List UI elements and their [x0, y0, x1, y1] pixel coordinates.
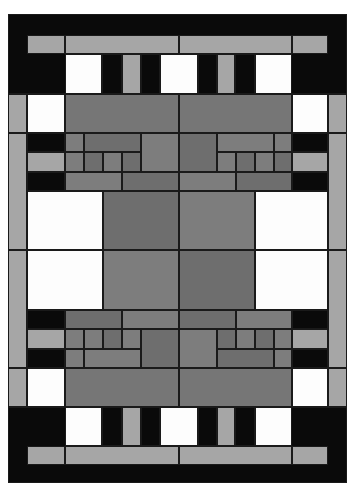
gray-block [65, 94, 179, 133]
medium-gray-block [274, 329, 292, 349]
light-gray-block [8, 368, 27, 407]
white-block [65, 407, 102, 446]
light-gray-block [292, 35, 328, 54]
dark-gray-block [122, 152, 141, 172]
black-block [102, 407, 122, 446]
dark-gray-block [122, 172, 179, 191]
light-gray-block [65, 446, 179, 465]
light-gray-block [217, 407, 235, 446]
white-block [27, 191, 103, 250]
medium-gray-block [217, 133, 274, 152]
medium-gray-block [65, 172, 122, 191]
light-gray-block [27, 152, 65, 172]
medium-gray-block [122, 310, 179, 329]
black-block [27, 172, 65, 191]
white-block [292, 368, 328, 407]
light-gray-block [328, 368, 347, 407]
gray-block [179, 94, 292, 133]
medium-gray-block [84, 349, 141, 368]
black-block [141, 54, 160, 94]
black-block [198, 407, 217, 446]
white-block [27, 250, 103, 310]
light-gray-block [292, 446, 328, 465]
light-gray-block [328, 94, 347, 133]
dark-gray-block [84, 152, 103, 172]
black-block [292, 133, 328, 152]
light-gray-block [27, 446, 65, 465]
medium-gray-block [179, 329, 217, 368]
light-gray-block [65, 35, 179, 54]
black-block [27, 133, 65, 152]
medium-gray-block [179, 191, 255, 250]
medium-gray-block [274, 133, 292, 152]
black-block [27, 310, 65, 329]
light-gray-block [328, 250, 347, 368]
medium-gray-block [255, 152, 274, 172]
medium-gray-block [141, 133, 179, 172]
white-block [27, 368, 65, 407]
light-gray-block [122, 54, 141, 94]
white-block [160, 407, 198, 446]
medium-gray-block [103, 152, 122, 172]
medium-gray-block [65, 329, 84, 349]
dark-gray-block [179, 310, 236, 329]
light-gray-block [8, 94, 27, 133]
dark-gray-block [103, 329, 122, 349]
medium-gray-block [65, 152, 84, 172]
medium-gray-block [84, 329, 103, 349]
black-block [198, 54, 217, 94]
light-gray-block [328, 133, 347, 250]
light-gray-block [292, 152, 328, 172]
black-block [292, 349, 328, 368]
white-block [27, 94, 65, 133]
dark-gray-block [217, 329, 236, 349]
medium-gray-block [179, 172, 236, 191]
black-block [292, 172, 328, 191]
dark-gray-block [255, 329, 274, 349]
medium-gray-block [103, 250, 179, 310]
white-block [255, 407, 292, 446]
light-gray-block [179, 35, 292, 54]
dark-gray-block [179, 250, 255, 310]
light-gray-block [8, 133, 27, 250]
dark-gray-block [236, 152, 255, 172]
white-block [255, 54, 292, 94]
light-gray-block [8, 250, 27, 368]
light-gray-block [27, 329, 65, 349]
black-block [235, 54, 255, 94]
black-block [102, 54, 122, 94]
white-block [255, 250, 328, 310]
medium-gray-block [274, 349, 292, 368]
dark-gray-block [179, 133, 217, 172]
white-block [255, 191, 328, 250]
medium-gray-block [236, 329, 255, 349]
dark-gray-block [141, 329, 179, 368]
dark-gray-block [103, 191, 179, 250]
dark-gray-block [236, 172, 292, 191]
black-block [141, 407, 160, 446]
light-gray-block [122, 407, 141, 446]
medium-gray-block [65, 349, 84, 368]
black-block [27, 349, 65, 368]
light-gray-block [179, 446, 292, 465]
medium-gray-block [122, 329, 141, 349]
gray-block [179, 368, 292, 407]
quilt-pattern-canvas [0, 0, 355, 497]
white-block [160, 54, 198, 94]
medium-gray-block [217, 152, 236, 172]
light-gray-block [217, 54, 235, 94]
dark-gray-block [217, 349, 274, 368]
black-block [292, 310, 328, 329]
dark-gray-block [274, 152, 292, 172]
light-gray-block [292, 329, 328, 349]
white-block [292, 94, 328, 133]
white-block [65, 54, 102, 94]
dark-gray-block [84, 133, 141, 152]
medium-gray-block [236, 310, 292, 329]
black-block [235, 407, 255, 446]
medium-gray-block [65, 133, 84, 152]
dark-gray-block [65, 310, 122, 329]
gray-block [65, 368, 179, 407]
light-gray-block [27, 35, 65, 54]
